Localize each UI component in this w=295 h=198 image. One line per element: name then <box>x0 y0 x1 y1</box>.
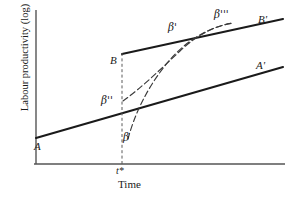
line-a-aprime <box>36 67 283 138</box>
label-beta-prime: β' <box>168 22 177 33</box>
label-a: A <box>34 141 41 152</box>
x-tick-label-tstar: t* <box>116 166 124 176</box>
label-b: B <box>110 55 117 66</box>
label-b-prime: B' <box>258 14 267 25</box>
label-beta-double-prime: β'' <box>101 95 113 106</box>
diagram-canvas <box>0 0 295 198</box>
label-a-prime: A' <box>256 60 265 71</box>
figure-container: Labour productivity (log) Time t* A A' B… <box>0 0 295 198</box>
y-axis-label: Labour productivity (log) <box>19 0 30 128</box>
label-beta: β <box>123 132 129 143</box>
curve-beta-double-prime <box>123 23 233 101</box>
label-beta-triple-prime: β''' <box>214 9 229 20</box>
x-axis-label: Time <box>118 178 141 190</box>
